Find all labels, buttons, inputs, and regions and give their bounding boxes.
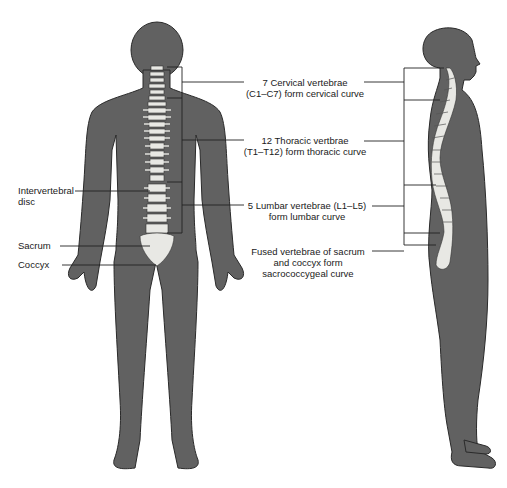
label-line: 7 Cervical vertebrae — [240, 77, 370, 88]
label-line: (C1–C7) form cervical curve — [240, 88, 370, 99]
label-sacrum: Sacrum — [18, 240, 51, 251]
label-thoracic: 12 Thoracic vertbrae (T1–T12) form thora… — [240, 135, 370, 157]
label-line: sacrococcygeal curve — [244, 268, 372, 279]
label-intervertebral-disc: Intervertebral disc — [18, 185, 74, 207]
label-line: Fused vertebrae of sacrum — [244, 246, 372, 257]
label-line: 5 Lumbar vertebrae (L1–L5) — [242, 200, 372, 211]
label-cervical: 7 Cervical vertebrae (C1–C7) form cervic… — [240, 77, 370, 99]
label-line: disc — [18, 196, 74, 207]
label-line: 12 Thoracic vertbrae — [240, 135, 370, 146]
spine-diagram — [0, 0, 507, 488]
lateral-figure — [423, 28, 496, 468]
label-lumbar: 5 Lumbar vertebrae (L1–L5) form lumbar c… — [242, 200, 372, 222]
label-sacrococcygeal: Fused vertebrae of sacrum and coccyx for… — [244, 246, 372, 279]
label-line: (T1–T12) form thoracic curve — [240, 146, 370, 157]
label-line: form lumbar curve — [242, 211, 372, 222]
label-line: Intervertebral — [18, 185, 74, 196]
label-line: and coccyx form — [244, 257, 372, 268]
label-coccyx: Coccyx — [18, 259, 49, 270]
